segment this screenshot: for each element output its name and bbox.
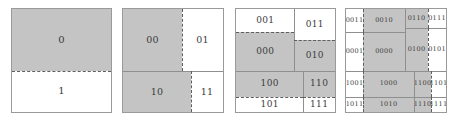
partition-cell-label: 1 <box>58 86 65 96</box>
partition-cell: 110 <box>303 71 335 97</box>
partition-cell: 1000 <box>363 71 414 97</box>
partition-cell: 011 <box>294 9 335 40</box>
partition-cell-label: 0000 <box>375 48 393 55</box>
partition-cell: 0001 <box>346 32 363 71</box>
partition-cell: 0 <box>12 9 111 71</box>
partition-cell-label: 0010 <box>375 17 393 24</box>
partition-cell: 1100 <box>414 71 431 97</box>
partition-cell-label: 001 <box>256 16 274 25</box>
partition-cell-label: 0101 <box>428 46 446 53</box>
partition-cell-label: 0111 <box>428 15 446 22</box>
partition-cell: 00 <box>123 9 182 71</box>
binary-partition-figure: 01 00011011 001011000010100110101111 001… <box>0 0 454 121</box>
partition-cell-label: 1111 <box>430 101 447 108</box>
partition-cell: 0010 <box>363 9 405 32</box>
partition-cell: 01 <box>182 9 223 71</box>
partition-cell: 0111 <box>428 9 446 28</box>
partition-panel-3: 001011000010100110101111 <box>235 8 336 113</box>
partition-cell-label: 101 <box>261 100 279 109</box>
partition-cell: 111 <box>303 97 335 112</box>
partition-panel-4: 0011001001100111000100000100010110011000… <box>345 8 447 113</box>
partition-panel-2: 00011011 <box>122 8 224 113</box>
partition-cell: 100 <box>236 71 303 97</box>
partition-cell: 10 <box>123 71 191 112</box>
partition-cell-label: 1010 <box>380 101 398 108</box>
partition-cell-label: 00 <box>146 35 159 45</box>
partition-cell-label: 1000 <box>380 80 398 87</box>
partition-cell-label: 111 <box>310 100 328 109</box>
partition-cell: 0011 <box>346 9 363 32</box>
partition-cell: 000 <box>236 32 294 71</box>
partition-cell-label: 011 <box>306 20 324 29</box>
partition-cell-label: 0001 <box>346 48 364 55</box>
partition-cell: 1001 <box>346 71 363 97</box>
partition-cell-label: 010 <box>306 51 324 60</box>
partition-cell-label: 10 <box>151 87 164 97</box>
partition-cell: 0000 <box>363 32 405 71</box>
partition-cell-label: 11 <box>201 87 214 97</box>
partition-cell: 1101 <box>431 71 446 97</box>
partition-cell-label: 110 <box>310 79 328 88</box>
partition-cell: 010 <box>294 40 335 71</box>
partition-cell: 001 <box>236 9 294 32</box>
partition-cell-label: 100 <box>261 79 279 88</box>
partition-panel-1: 01 <box>11 8 112 113</box>
partition-cell-label: 0110 <box>408 15 426 22</box>
partition-cell: 1110 <box>414 97 431 112</box>
partition-cell: 11 <box>191 71 223 112</box>
partition-cell-label: 0100 <box>408 46 426 53</box>
partition-cell: 0101 <box>428 28 446 71</box>
partition-cell-label: 000 <box>256 47 274 56</box>
partition-cell: 0110 <box>405 9 428 28</box>
partition-cell: 101 <box>236 97 303 112</box>
partition-cell: 0100 <box>405 28 428 71</box>
partition-cell: 1111 <box>431 97 446 112</box>
partition-cell-label: 1011 <box>346 101 364 108</box>
partition-cell: 1 <box>12 71 111 112</box>
partition-cell-label: 1001 <box>346 80 364 87</box>
partition-cell-label: 0011 <box>346 17 364 24</box>
partition-cell-label: 01 <box>196 35 209 45</box>
partition-cell: 1010 <box>363 97 414 112</box>
partition-cell: 1011 <box>346 97 363 112</box>
partition-cell-label: 1101 <box>430 80 447 87</box>
partition-cell-label: 0 <box>58 35 65 45</box>
